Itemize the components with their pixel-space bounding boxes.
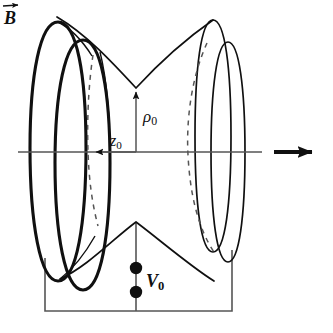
label-rho-symbol: ρ — [143, 107, 151, 126]
endcap-left-electrode — [30, 22, 110, 290]
label-v-symbol: V — [146, 271, 158, 291]
label-v-zero: V0 — [146, 272, 164, 293]
label-rho-zero: ρ0 — [143, 108, 157, 128]
label-v-subscript: 0 — [158, 279, 164, 293]
voltage-terminal-lower — [130, 286, 142, 298]
ring-right-electrode — [195, 20, 245, 262]
ring-profile-top — [57, 17, 213, 88]
label-z-subscript: 0 — [116, 139, 122, 151]
endcap-connector-bottom — [60, 236, 95, 279]
voltage-terminal-upper — [130, 262, 142, 274]
circuit-wire-loop — [45, 250, 232, 311]
label-rho-subscript: 0 — [151, 114, 157, 128]
penning-trap-figure: ρ0 z0 V0 B — [0, 0, 333, 333]
label-z-zero: z0 — [110, 133, 122, 151]
dashed-arc-endcap — [88, 55, 98, 226]
dashed-arc-ring — [188, 43, 214, 252]
axis-and-dimensions — [18, 92, 312, 152]
label-b-symbol: B — [4, 9, 16, 27]
diagram-canvas — [0, 0, 333, 333]
